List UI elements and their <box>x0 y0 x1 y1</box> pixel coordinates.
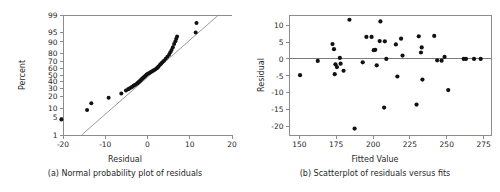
data-point-b-27 <box>414 102 418 106</box>
y-tick-label-a-0: 1 <box>53 131 58 140</box>
data-point-b-28 <box>417 34 421 38</box>
data-point-b-6 <box>335 65 339 69</box>
data-point-a-1 <box>85 108 89 112</box>
y-tick-label-b-3: -5 <box>276 72 284 81</box>
x-tick-label-b-2: 200 <box>366 140 381 149</box>
x-tick-label-a-3: 10 <box>185 140 195 149</box>
data-point-a-3 <box>107 96 111 100</box>
data-point-b-13 <box>364 35 368 39</box>
y-tick-label-a-10: 90 <box>48 38 58 47</box>
data-point-b-39 <box>472 57 476 61</box>
normal-reference-line <box>82 15 219 135</box>
data-points-a <box>59 21 198 122</box>
y-tick-label-a-8: 70 <box>48 57 58 66</box>
data-point-b-32 <box>432 34 436 38</box>
data-point-b-38 <box>464 57 468 61</box>
x-tick-label-b-3: 225 <box>403 140 418 149</box>
data-point-b-2 <box>330 42 334 46</box>
y-tick-label-b-0: 10 <box>274 21 284 30</box>
x-tick-label-b-0: 150 <box>292 140 307 149</box>
data-point-b-10 <box>347 18 351 22</box>
data-point-b-24 <box>395 74 399 78</box>
data-point-b-3 <box>332 47 336 51</box>
data-point-b-7 <box>338 56 342 60</box>
data-point-b-16 <box>373 48 377 52</box>
x-axis-ticks-b: 150175200225250275 <box>292 135 491 149</box>
data-point-b-0 <box>298 73 302 77</box>
y-axis-ticks-b: 1050-5-10-15-20 <box>271 21 289 131</box>
x-tick-label-a-0: -20 <box>57 140 69 149</box>
data-point-b-5 <box>333 72 337 76</box>
data-point-b-14 <box>369 35 373 39</box>
y-tick-label-b-5: -15 <box>271 105 283 114</box>
data-point-b-8 <box>339 62 343 66</box>
y-axis-title-b: Residual <box>257 58 266 92</box>
x-tick-label-a-1: -10 <box>99 140 111 149</box>
data-point-b-34 <box>440 59 444 63</box>
data-point-b-20 <box>382 106 386 110</box>
y-tick-label-a-3: 20 <box>48 92 58 101</box>
data-point-b-17 <box>375 63 379 67</box>
data-point-b-21 <box>383 39 387 43</box>
x-tick-label-a-4: 20 <box>227 140 237 149</box>
x-axis-title-b: Fitted Value <box>250 155 500 164</box>
panel-caption-a: (a) Normal probability plot of residuals <box>0 169 250 178</box>
data-point-b-9 <box>341 69 345 73</box>
data-point-a-50 <box>195 21 199 25</box>
data-point-b-26 <box>400 53 404 57</box>
data-point-a-2 <box>89 101 93 105</box>
data-point-b-40 <box>479 57 483 61</box>
data-point-b-18 <box>378 39 382 43</box>
y-tick-label-b-6: -20 <box>271 122 283 131</box>
data-point-b-22 <box>384 57 388 61</box>
figure-container: 151020304050607080909599 -20-1001020 Per… <box>0 0 500 192</box>
data-point-b-36 <box>446 88 450 92</box>
data-point-b-33 <box>435 58 439 62</box>
data-point-b-31 <box>420 45 424 49</box>
data-point-b-30 <box>420 77 424 81</box>
data-point-b-11 <box>353 126 357 130</box>
residuals-vs-fits-svg: 1050-5-10-15-20 150175200225250275 <box>250 0 500 150</box>
y-tick-label-b-2: 0 <box>279 55 284 64</box>
plot-frame-b <box>289 15 491 135</box>
data-point-b-12 <box>361 60 365 64</box>
y-tick-label-b-4: -10 <box>271 88 283 97</box>
x-tick-label-b-4: 250 <box>440 140 455 149</box>
data-point-a-48 <box>175 35 179 39</box>
data-point-b-19 <box>378 19 382 23</box>
data-point-a-0 <box>59 118 63 122</box>
x-axis-ticks-a: -20-1001020 <box>57 135 237 149</box>
data-point-b-23 <box>394 42 398 46</box>
data-point-a-4 <box>119 91 123 95</box>
data-point-b-35 <box>442 55 446 59</box>
data-points-b <box>298 18 483 131</box>
x-tick-label-b-5: 275 <box>476 140 491 149</box>
data-point-b-1 <box>316 59 320 63</box>
y-tick-label-a-2: 10 <box>48 104 58 113</box>
normal-probability-plot-svg: 151020304050607080909599 -20-1001020 <box>0 0 250 150</box>
y-tick-label-a-11: 95 <box>48 28 58 37</box>
y-tick-label-a-9: 80 <box>48 49 58 58</box>
x-tick-label-a-2: 0 <box>145 140 150 149</box>
y-tick-label-b-1: 5 <box>279 38 284 47</box>
panel-normal-probability-plot: 151020304050607080909599 -20-1001020 Per… <box>0 0 250 192</box>
data-point-a-49 <box>194 31 198 35</box>
panel-caption-b: (b) Scatterplot of residuals versus fits <box>250 169 500 178</box>
data-point-b-25 <box>399 37 403 41</box>
panel-residuals-vs-fits: 1050-5-10-15-20 150175200225250275 Resid… <box>250 0 500 192</box>
x-tick-label-b-1: 175 <box>329 140 344 149</box>
y-tick-label-a-12: 99 <box>48 11 58 20</box>
y-tick-label-a-1: 5 <box>53 113 58 122</box>
x-axis-title-a: Residual <box>0 155 250 164</box>
y-axis-title-a: Percent <box>18 60 27 90</box>
data-point-b-29 <box>419 50 423 54</box>
